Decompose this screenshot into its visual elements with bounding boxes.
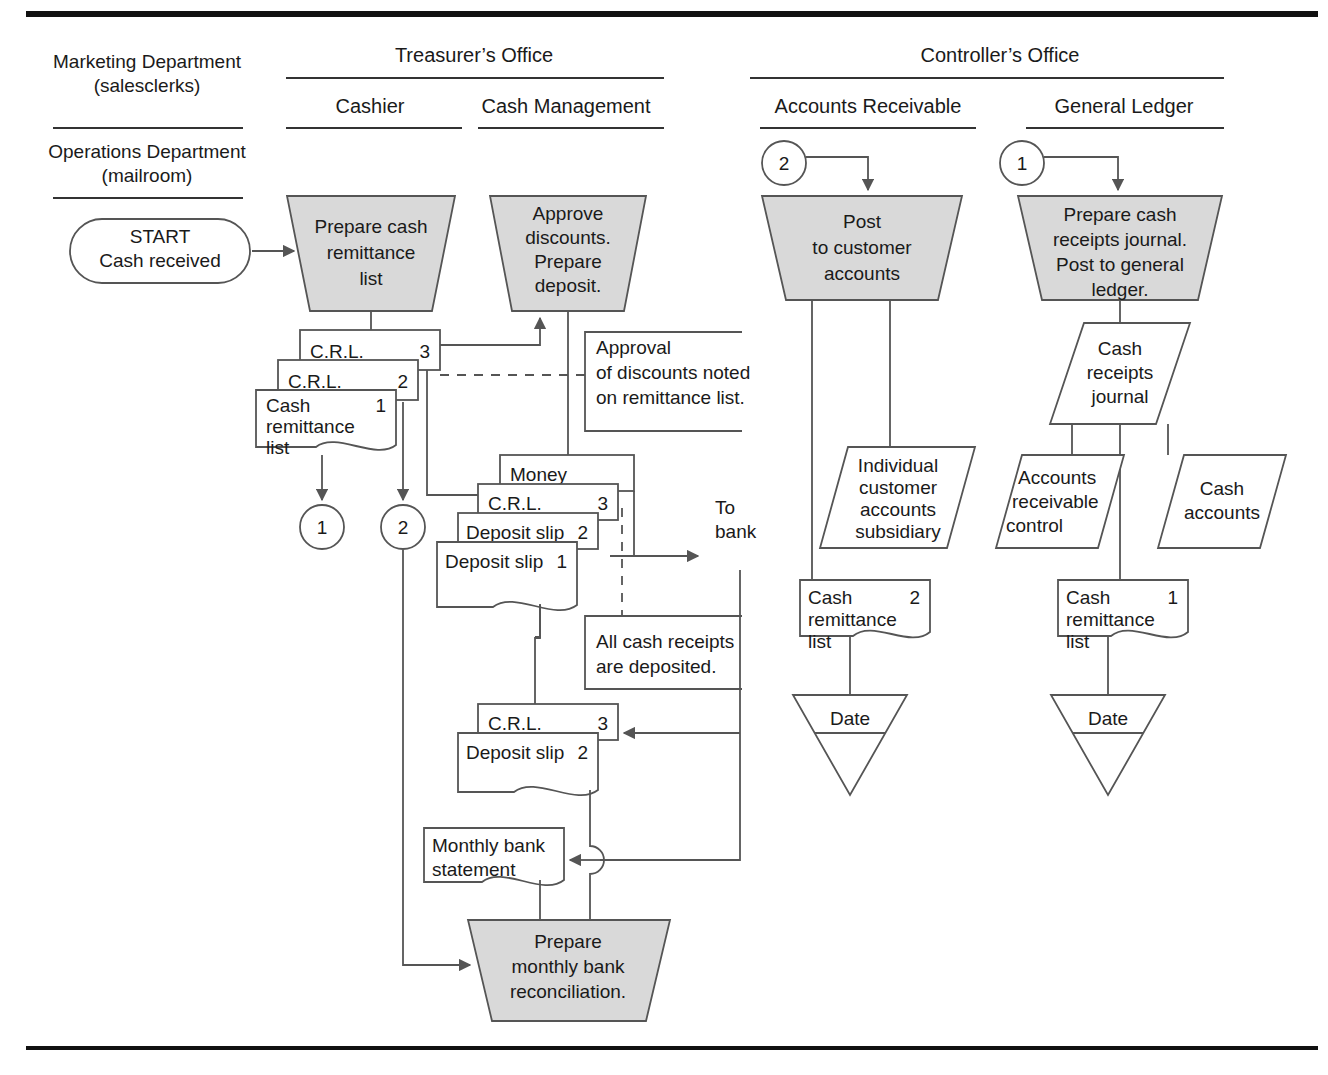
- process-prepare-cash-remittance-list-line1: Prepare cash: [314, 216, 427, 237]
- process-prepare-cash-remittance-list-line2: remittance: [327, 242, 416, 263]
- start-terminator-line1: START: [130, 226, 191, 247]
- document-crl-copy-3-number: 3: [419, 341, 430, 362]
- document-ar-cash-remittance-list-line1: Cash: [808, 587, 852, 608]
- ledger-cash-accounts-line1: Cash: [1200, 478, 1244, 499]
- ledger-accounts-receivable-control-line3: control: [1006, 515, 1063, 536]
- process-prepare-cash-remittance-list-line3: list: [359, 268, 383, 289]
- document-deposit-slip-2-title: Deposit slip: [466, 522, 564, 543]
- document-crl-copy-1-line1: Cash: [266, 395, 310, 416]
- header-treasurers-office: Treasurer’s Office: [395, 44, 553, 66]
- ledger-cash-receipts-journal-line1: Cash: [1098, 338, 1142, 359]
- document-monthly-bank-statement-line1: Monthly bank: [432, 835, 546, 856]
- process-approve-discounts-line1: Approve: [533, 203, 604, 224]
- annotation-deposit-line1: All cash receipts: [596, 631, 734, 652]
- process-prepare-monthly-bank-reconciliation-line2: monthly bank: [511, 956, 625, 977]
- document-monthly-bank-statement-line2: statement: [432, 859, 516, 880]
- process-prepare-monthly-bank-reconciliation-line1: Prepare: [534, 931, 602, 952]
- connector-out-1-label: 1: [317, 517, 328, 538]
- file-date-ar-label: Date: [830, 708, 870, 729]
- document-gl-cash-remittance-list-line3: list: [1066, 631, 1090, 652]
- process-prepare-cash-receipts-journal-line3: Post to general: [1056, 254, 1184, 275]
- bottom-rule: [26, 1046, 1318, 1050]
- process-post-to-customer-accounts-line1: Post: [843, 211, 882, 232]
- document-returned-deposit-slip-2-number: 2: [577, 742, 588, 763]
- ledger-individual-customer-accounts-subsidiary-line3: accounts: [860, 499, 936, 520]
- ledger-accounts-receivable-control-line2: receivable: [1012, 491, 1099, 512]
- offpage-to-bank-line1: To: [715, 497, 735, 518]
- document-crl-copy-1-line2: remittance: [266, 416, 355, 437]
- file-date-gl-label: Date: [1088, 708, 1128, 729]
- ledger-individual-customer-accounts-subsidiary-line1: Individual: [858, 455, 938, 476]
- connector-out-2-label: 2: [398, 517, 409, 538]
- header-accounts-receivable: Accounts Receivable: [775, 95, 962, 117]
- annotation-deposit-line2: are deposited.: [596, 656, 716, 677]
- flowchart-canvas: Treasurer’s Office Controller’s Office M…: [0, 0, 1328, 1075]
- document-gl-cash-remittance-list-line1: Cash: [1066, 587, 1110, 608]
- document-deposit-slip-1-title: Deposit slip: [445, 551, 543, 572]
- process-approve-discounts-line3: Prepare: [534, 251, 602, 272]
- process-post-to-customer-accounts-line3: accounts: [824, 263, 900, 284]
- annotation-approval-line3: on remittance list.: [596, 387, 745, 408]
- header-operations-department-line1: Operations Department: [48, 141, 246, 162]
- document-deposit-slip-2-number: 2: [577, 522, 588, 543]
- ledger-individual-customer-accounts-subsidiary-line4: subsidiary: [855, 521, 941, 542]
- document-crl-copy-2-number: 2: [397, 371, 408, 392]
- header-cash-management: Cash Management: [482, 95, 651, 117]
- document-gl-cash-remittance-list-number: 1: [1167, 587, 1178, 608]
- header-controllers-office: Controller’s Office: [921, 44, 1080, 66]
- header-operations-department-line2: (mailroom): [102, 165, 193, 186]
- document-money-title: Money: [510, 464, 568, 485]
- document-ar-cash-remittance-list-number: 2: [909, 587, 920, 608]
- process-approve-discounts-line2: discounts.: [525, 227, 611, 248]
- start-terminator-line2: Cash received: [99, 250, 220, 271]
- document-deposit-crl-3-title: C.R.L.: [488, 493, 542, 514]
- annotation-approval-line1: Approval: [596, 337, 671, 358]
- connector-in-1-label: 1: [1017, 153, 1028, 174]
- process-prepare-monthly-bank-reconciliation-line3: reconciliation.: [510, 981, 626, 1002]
- ledger-cash-receipts-journal-line3: journal: [1090, 386, 1148, 407]
- offpage-to-bank-line2: bank: [715, 521, 757, 542]
- document-gl-cash-remittance-list-line2: remittance: [1066, 609, 1155, 630]
- document-returned-crl-3-number: 3: [597, 713, 608, 734]
- process-approve-discounts-line4: deposit.: [535, 275, 602, 296]
- ledger-accounts-receivable-control-line1: Accounts: [1018, 467, 1096, 488]
- document-ar-cash-remittance-list-line2: remittance: [808, 609, 897, 630]
- header-general-ledger: General Ledger: [1055, 95, 1194, 117]
- annotation-approval-line2: of discounts noted: [596, 362, 750, 383]
- document-ar-cash-remittance-list-line3: list: [808, 631, 832, 652]
- document-returned-deposit-slip-2-title: Deposit slip: [466, 742, 564, 763]
- document-crl-copy-1-line3: list: [266, 437, 290, 458]
- process-prepare-cash-receipts-journal-line1: Prepare cash: [1063, 204, 1176, 225]
- document-crl-copy-1-number: 1: [375, 395, 386, 416]
- process-prepare-cash-receipts-journal-line2: receipts journal.: [1053, 229, 1187, 250]
- header-cashier: Cashier: [336, 95, 405, 117]
- process-post-to-customer-accounts-line2: to customer: [812, 237, 912, 258]
- document-deposit-slip-1-number: 1: [556, 551, 567, 572]
- top-rule: [26, 11, 1318, 17]
- header-marketing-department-line2: (salesclerks): [94, 75, 201, 96]
- ledger-cash-receipts-journal-line2: receipts: [1087, 362, 1154, 383]
- header-marketing-department-line1: Marketing Department: [53, 51, 242, 72]
- document-crl-copy-3-title: C.R.L.: [310, 341, 364, 362]
- document-deposit-crl-3-number: 3: [597, 493, 608, 514]
- document-returned-crl-3-title: C.R.L.: [488, 713, 542, 734]
- flowchart-page: Treasurer’s Office Controller’s Office M…: [0, 0, 1328, 1075]
- process-prepare-cash-receipts-journal-line4: ledger.: [1091, 279, 1148, 300]
- ledger-individual-customer-accounts-subsidiary-line2: customer: [859, 477, 938, 498]
- connector-in-2-label: 2: [779, 153, 790, 174]
- document-crl-copy-2-title: C.R.L.: [288, 371, 342, 392]
- ledger-cash-accounts-line2: accounts: [1184, 502, 1260, 523]
